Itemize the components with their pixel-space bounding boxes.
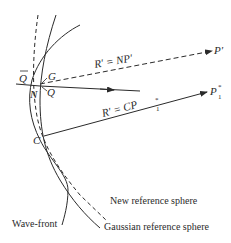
label-P1-star-sup: * (218, 83, 222, 91)
label-Q: Q (47, 86, 55, 98)
diagram-canvas: Q G N Q C P′ P * 1 R′ = NP′ R′ = CP * 1 … (0, 0, 231, 243)
label-new-reference-sphere: New reference sphere (110, 195, 198, 206)
label-gaussian-reference-sphere: Gaussian reference sphere (104, 221, 210, 232)
wavefront-diagram: Q G N Q C P′ P * 1 R′ = NP′ R′ = CP * 1 … (0, 0, 231, 243)
ray-through-Q (40, 86, 140, 91)
label-P1-star-sub: 1 (218, 93, 222, 101)
label-P1-star: P (209, 85, 217, 97)
wave-front-curve (30, 25, 80, 225)
g-pointer (42, 78, 47, 83)
label-Q-bar: Q (19, 72, 27, 84)
label-P-prime: P′ (213, 44, 224, 56)
label-lower-ray-sub: 1 (156, 105, 160, 113)
label-lower-ray-sup: * (155, 96, 159, 104)
ray-to-P1-star (44, 92, 207, 136)
new-reference-sphere-curve (34, 15, 107, 221)
label-wave-front: Wave-front (12, 218, 58, 229)
axis-line (16, 84, 40, 86)
gaussian-reference-sphere-curve (40, 15, 100, 228)
label-C: C (33, 134, 41, 146)
label-G: G (48, 70, 56, 82)
label-N: N (29, 88, 38, 100)
